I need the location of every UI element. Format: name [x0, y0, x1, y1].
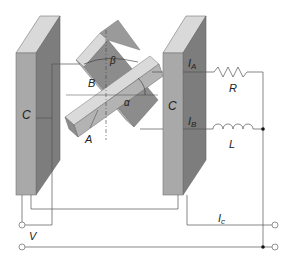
terminal-v-top: [19, 222, 25, 228]
right-plate-label: C: [168, 99, 177, 113]
beta-label: β: [109, 55, 116, 66]
right-plate-front: [163, 53, 183, 195]
inductor: [213, 124, 263, 129]
left-plate-front: [16, 53, 36, 195]
voltage-label: V: [29, 230, 38, 242]
alpha-label: α: [124, 97, 130, 108]
right-capacitor-plate: C: [163, 16, 206, 195]
crystal-a-label: A: [84, 133, 92, 145]
wire-ic: [187, 195, 272, 225]
left-lead-b: [31, 195, 178, 209]
piezo-circuit-diagram: C C β α B A: [0, 0, 289, 260]
terminal-v-bottom: [19, 244, 25, 250]
left-plate-label: C: [22, 108, 31, 122]
crystal-b-label: B: [88, 77, 95, 89]
junction-dot-inductor: [261, 127, 265, 131]
junction-dot-bottom: [261, 245, 265, 249]
resistor: [214, 67, 263, 77]
terminal-ic: [272, 222, 278, 228]
inductor-label: L: [229, 138, 235, 150]
resistor-label: R: [229, 82, 237, 94]
current-c-label: Ic: [218, 212, 225, 226]
left-capacitor-plate: C: [16, 16, 60, 195]
crystal: β α B A: [65, 20, 163, 145]
terminal-common: [272, 244, 278, 250]
